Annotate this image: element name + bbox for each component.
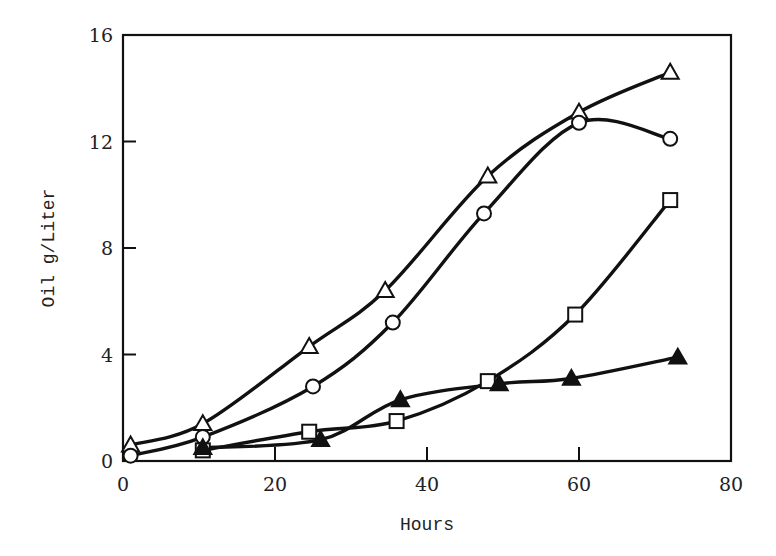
open-square-curve xyxy=(203,200,670,450)
x-tick-label: 40 xyxy=(415,473,439,495)
y-axis-ticks: 0481216 xyxy=(89,24,136,472)
filled-triangle-curve xyxy=(203,357,678,448)
open-circle-marker xyxy=(663,132,677,146)
y-tick-label: 0 xyxy=(101,450,113,472)
line-chart: 020406080 0481216 Hours Oil g/Liter xyxy=(0,0,776,556)
open-circle-marker xyxy=(306,379,320,393)
open-square-marker xyxy=(663,193,677,207)
x-axis-title: Hours xyxy=(400,515,454,535)
x-tick-label: 60 xyxy=(567,473,591,495)
data-markers xyxy=(122,64,686,463)
plot-border xyxy=(123,35,731,461)
open-triangle-marker xyxy=(662,64,679,79)
open-circle-marker xyxy=(572,116,586,130)
x-tick-label: 0 xyxy=(117,473,129,495)
y-tick-label: 12 xyxy=(89,131,113,153)
open-circle-marker xyxy=(386,316,400,330)
open-square-marker xyxy=(568,308,582,322)
open-triangle-marker xyxy=(194,415,211,430)
open-triangle-curve xyxy=(131,72,671,445)
y-tick-label: 16 xyxy=(89,24,113,46)
x-tick-label: 20 xyxy=(263,473,287,495)
plot-frame xyxy=(123,35,731,461)
open-square-marker xyxy=(390,414,404,428)
y-axis-title: Oil g/Liter xyxy=(39,189,59,308)
open-circle-marker xyxy=(124,449,138,463)
filled-triangle-marker xyxy=(669,349,686,364)
y-tick-label: 4 xyxy=(101,344,113,366)
y-tick-label: 8 xyxy=(101,237,113,259)
open-square-marker xyxy=(302,425,316,439)
open-circle-marker xyxy=(477,206,491,220)
x-tick-label: 80 xyxy=(719,473,743,495)
